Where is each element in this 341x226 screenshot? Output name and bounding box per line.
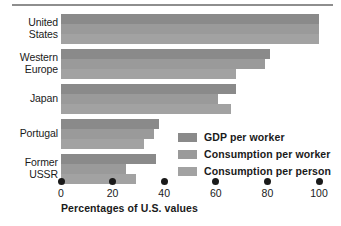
bar bbox=[61, 49, 270, 59]
chart-figure: UnitedStatesWesternEuropeJapanPortugalFo… bbox=[0, 0, 341, 226]
legend-color-swatch bbox=[178, 150, 197, 159]
bar bbox=[61, 164, 126, 174]
bars-container bbox=[61, 14, 341, 46]
x-axis-tick-label: 40 bbox=[144, 187, 184, 199]
category-label-line: Portugal bbox=[0, 128, 58, 140]
x-axis-tick-label: 80 bbox=[247, 187, 287, 199]
x-axis-tick-mark bbox=[161, 178, 168, 185]
bar bbox=[61, 34, 319, 44]
x-axis-title: Percentages of U.S. values bbox=[61, 202, 198, 214]
bar bbox=[61, 59, 265, 69]
x-axis-tick-label: 0 bbox=[41, 187, 81, 199]
chart-legend: GDP per workerConsumption per workerCons… bbox=[178, 131, 338, 182]
category-label-line: Europe bbox=[0, 64, 58, 76]
bar bbox=[61, 154, 156, 164]
x-axis-tick-label: 60 bbox=[196, 187, 236, 199]
category-label-line: Former bbox=[0, 157, 58, 169]
x-axis-tick-label: 100 bbox=[299, 187, 339, 199]
top-divider-rule bbox=[12, 4, 333, 6]
legend-item: Consumption per worker bbox=[178, 148, 338, 164]
bar-group: UnitedStates bbox=[0, 14, 341, 46]
x-axis-tick-label: 20 bbox=[93, 187, 133, 199]
category-label-line: Western bbox=[0, 52, 58, 64]
bar bbox=[61, 24, 319, 34]
category-label: FormerUSSR bbox=[0, 157, 58, 180]
legend-item: GDP per worker bbox=[178, 131, 338, 147]
bar-group: Japan bbox=[0, 84, 341, 116]
legend-item: Consumption per person bbox=[178, 165, 338, 181]
bar bbox=[61, 119, 159, 129]
x-axis-tick-mark bbox=[58, 178, 65, 185]
legend-color-swatch bbox=[178, 133, 197, 142]
bar bbox=[61, 139, 144, 149]
category-label: WesternEurope bbox=[0, 52, 58, 75]
bar bbox=[61, 69, 236, 79]
bar bbox=[61, 84, 236, 94]
bar bbox=[61, 14, 319, 24]
bar bbox=[61, 129, 154, 139]
category-label: UnitedStates bbox=[0, 17, 58, 40]
category-label-line: United bbox=[0, 17, 58, 29]
legend-color-swatch bbox=[178, 167, 197, 176]
bars-container bbox=[61, 84, 341, 116]
category-label-line: Japan bbox=[0, 93, 58, 105]
legend-label: GDP per worker bbox=[204, 131, 285, 143]
category-label: Portugal bbox=[0, 128, 58, 140]
legend-label: Consumption per person bbox=[204, 165, 331, 177]
x-axis-tick-mark bbox=[109, 178, 116, 185]
bar bbox=[61, 104, 231, 114]
bars-container bbox=[61, 49, 341, 81]
legend-label: Consumption per worker bbox=[204, 148, 330, 160]
bar bbox=[61, 94, 218, 104]
category-label: Japan bbox=[0, 93, 58, 105]
category-label-line: States bbox=[0, 29, 58, 41]
bar-group: WesternEurope bbox=[0, 49, 341, 81]
